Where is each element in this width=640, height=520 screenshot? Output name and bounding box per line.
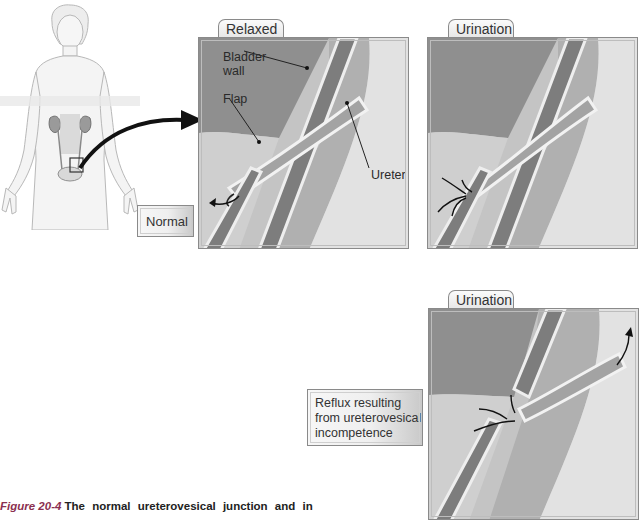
figure-number: Figure 20-4 <box>0 500 61 512</box>
annotation-ureter: Ureter <box>371 168 406 182</box>
reflux-label: Reflux resulting from ureterovesical inc… <box>307 389 423 446</box>
ureterovesical-reflux-illustration <box>429 309 639 520</box>
tab-urination-bottom-label: Urination <box>456 292 512 308</box>
panel-urination-reflux <box>428 308 639 520</box>
figure-caption-text: The normal ureterovesical junction and i… <box>65 500 313 512</box>
annotation-line: Bladder <box>223 50 266 64</box>
reflux-label-line3: incompetence <box>315 426 421 441</box>
tab-urination-top: Urination <box>448 19 514 38</box>
reflux-label-line1: Reflux resulting <box>315 396 421 411</box>
tab-urination-bottom: Urination <box>448 290 514 309</box>
annotation-bladder-wall: Bladder wall <box>223 50 266 78</box>
normal-label-text: Normal <box>146 214 188 229</box>
tab-urination-top-label: Urination <box>456 21 512 37</box>
tab-relaxed: Relaxed <box>218 19 284 38</box>
annotation-line: wall <box>223 64 266 78</box>
tab-relaxed-label: Relaxed <box>226 21 277 37</box>
figure-caption: Figure 20-4 The normal ureterovesical ju… <box>0 500 313 512</box>
reflux-label-line2: from ureterovesical <box>315 411 421 426</box>
ureterovesical-junction-urination-illustration <box>428 38 638 249</box>
pointer-arrow-icon <box>75 100 205 180</box>
normal-label: Normal <box>137 205 194 237</box>
annotation-flap: Flap <box>223 92 247 106</box>
panel-urination-normal <box>427 37 638 249</box>
panel-relaxed: Bladder wall Flap Ureter <box>198 37 409 249</box>
